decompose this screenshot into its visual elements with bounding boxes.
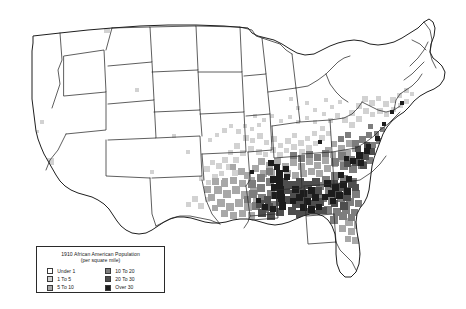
legend-label-over-30: Over 30 [115,284,133,291]
legend-swatch-1-to-5 [47,276,53,282]
legend-label-20-to-30: 20 To 30 [115,276,135,283]
legend-entries: Under 1 10 To 20 1 To 5 20 To 30 5 To 10… [42,267,159,292]
legend-label-1-to-5: 1 To 5 [57,276,71,283]
legend-entry-20-to-30: 20 To 30 [105,275,161,283]
legend-swatch-20-to-30 [105,276,111,282]
legend-swatch-5-to-10 [47,285,53,291]
map-figure: 1910 African American Population (per sq… [0,0,466,309]
legend-label-5-to-10: 5 To 10 [57,284,74,291]
legend-label-under-1: Under 1 [57,268,75,275]
map-legend: 1910 African American Population (per sq… [36,246,165,293]
legend-entry-5-to-10: 5 To 10 [47,284,102,292]
legend-entry-1-to-5: 1 To 5 [47,275,102,283]
legend-swatch-under-1 [47,268,53,274]
legend-swatch-10-to-20 [105,268,111,274]
legend-entry-over-30: Over 30 [105,284,161,292]
legend-swatch-over-30 [105,285,111,291]
legend-label-10-to-20: 10 To 20 [115,268,135,275]
legend-entry-10-to-20: 10 To 20 [105,267,161,275]
legend-title-line-2: (per square mile) [42,257,159,263]
legend-entry-under-1: Under 1 [47,267,102,275]
